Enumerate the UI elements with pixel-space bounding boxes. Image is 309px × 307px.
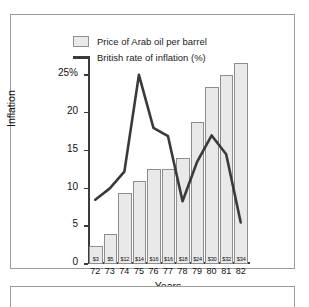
x-axis-tick-labels: 7273747576777879808182 bbox=[88, 266, 248, 278]
bar-swatch-icon bbox=[73, 36, 89, 47]
y-tick-label: 10 bbox=[67, 181, 78, 192]
inflation-line-series bbox=[88, 56, 248, 264]
y-tick-label: 15 bbox=[67, 143, 78, 154]
x-tick-label-82: 82 bbox=[233, 266, 248, 276]
legend-item-oil-price: Price of Arab oil per barrel bbox=[73, 34, 273, 49]
x-tick-label-74: 74 bbox=[117, 266, 132, 276]
chart-figure-frame: Price of Arab oil per barrel British rat… bbox=[10, 14, 295, 269]
inflation-line-path bbox=[95, 75, 240, 222]
y-tick-label: 25% bbox=[58, 67, 78, 78]
x-tick-label-77: 77 bbox=[161, 266, 176, 276]
plot-area: 0510152025% $3$5$12$14$16$16$18$24$30$32… bbox=[88, 56, 248, 264]
x-tick-label-79: 79 bbox=[190, 266, 205, 276]
x-tick-label-72: 72 bbox=[88, 266, 103, 276]
x-tick-label-73: 73 bbox=[103, 266, 118, 276]
line-swatch-icon bbox=[73, 56, 89, 59]
x-tick-label-75: 75 bbox=[132, 266, 147, 276]
legend-label-oil-price: Price of Arab oil per barrel bbox=[97, 36, 207, 48]
y-axis-title: Inflation bbox=[5, 90, 17, 127]
y-tick-label: 20 bbox=[67, 105, 78, 116]
y-tick-label: 5 bbox=[72, 218, 78, 229]
x-tick-label-80: 80 bbox=[204, 266, 219, 276]
x-tick-label-76: 76 bbox=[146, 266, 161, 276]
y-tick-label: 0 bbox=[72, 256, 78, 267]
figure-page: Price of Arab oil per barrel British rat… bbox=[0, 0, 309, 307]
next-figure-frame-partial bbox=[10, 286, 295, 307]
x-tick-label-78: 78 bbox=[175, 266, 190, 276]
x-tick-label-81: 81 bbox=[219, 266, 234, 276]
